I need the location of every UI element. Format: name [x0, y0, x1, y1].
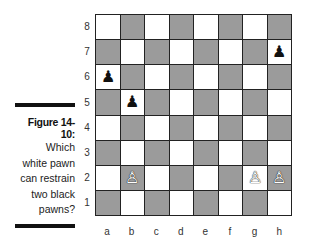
- square-b2: ♙: [121, 166, 145, 190]
- square-h4: [268, 116, 292, 140]
- square-b3: [121, 141, 145, 165]
- square-d8: [170, 15, 194, 39]
- square-a4: [96, 116, 120, 140]
- caption-line: Which: [15, 140, 75, 156]
- square-f8: [219, 15, 243, 39]
- square-d2: [170, 166, 194, 190]
- square-d7: [170, 40, 194, 64]
- white-pawn-icon: ♙: [248, 170, 262, 186]
- square-b6: [121, 65, 145, 89]
- square-c8: [145, 15, 169, 39]
- file-label-d: d: [169, 226, 193, 237]
- square-h2: ♙: [268, 166, 292, 190]
- square-c7: [145, 40, 169, 64]
- rank-label-3: 3: [82, 147, 92, 158]
- caption-line: two black: [15, 187, 75, 203]
- square-g1: [243, 191, 267, 215]
- square-b1: [121, 191, 145, 215]
- square-d4: [170, 116, 194, 140]
- square-h7: ♟: [268, 40, 292, 64]
- rank-label-2: 2: [82, 172, 92, 183]
- square-g7: [243, 40, 267, 64]
- figure-caption: Figure 14-10: Which white pawn can restr…: [15, 103, 75, 228]
- square-d3: [170, 141, 194, 165]
- caption-body: Which white pawn can restrain two black …: [15, 140, 75, 218]
- square-b5: ♟: [121, 90, 145, 114]
- file-label-c: c: [144, 226, 168, 237]
- square-c2: [145, 166, 169, 190]
- file-label-e: e: [193, 226, 217, 237]
- square-f7: [219, 40, 243, 64]
- square-a5: [96, 90, 120, 114]
- square-f5: [219, 90, 243, 114]
- square-b4: [121, 116, 145, 140]
- file-label-b: b: [120, 226, 144, 237]
- square-f1: [219, 191, 243, 215]
- square-g5: [243, 90, 267, 114]
- square-a6: ♟: [96, 65, 120, 89]
- chess-board: ♟♟♟♙♙♙: [95, 14, 292, 216]
- file-label-a: a: [95, 226, 119, 237]
- square-g8: [243, 15, 267, 39]
- square-g6: [243, 65, 267, 89]
- square-a3: [96, 141, 120, 165]
- square-h1: [268, 191, 292, 215]
- square-h6: [268, 65, 292, 89]
- square-a1: [96, 191, 120, 215]
- white-pawn-icon: ♙: [272, 170, 286, 186]
- file-label-h: h: [267, 226, 291, 237]
- square-g4: [243, 116, 267, 140]
- white-pawn-icon: ♙: [125, 170, 139, 186]
- black-pawn-icon: ♟: [101, 69, 115, 85]
- caption-top-rule: [15, 103, 75, 107]
- square-f4: [219, 116, 243, 140]
- file-label-g: g: [243, 226, 267, 237]
- square-h5: [268, 90, 292, 114]
- caption-title: Figure 14-10:: [15, 116, 75, 140]
- square-g3: [243, 141, 267, 165]
- square-c6: [145, 65, 169, 89]
- square-e5: [194, 90, 218, 114]
- rank-label-6: 6: [82, 71, 92, 82]
- square-h8: [268, 15, 292, 39]
- rank-label-1: 1: [82, 197, 92, 208]
- square-a2: [96, 166, 120, 190]
- square-e2: [194, 166, 218, 190]
- rank-label-5: 5: [82, 97, 92, 108]
- square-e7: [194, 40, 218, 64]
- square-d5: [170, 90, 194, 114]
- square-f6: [219, 65, 243, 89]
- caption-line: white pawn: [15, 156, 75, 172]
- square-e6: [194, 65, 218, 89]
- square-c1: [145, 191, 169, 215]
- square-a8: [96, 15, 120, 39]
- square-d6: [170, 65, 194, 89]
- square-f2: [219, 166, 243, 190]
- square-e8: [194, 15, 218, 39]
- black-pawn-icon: ♟: [125, 94, 139, 110]
- square-e3: [194, 141, 218, 165]
- square-c3: [145, 141, 169, 165]
- square-d1: [170, 191, 194, 215]
- caption-line: can restrain: [15, 171, 75, 187]
- rank-label-8: 8: [82, 21, 92, 32]
- square-h3: [268, 141, 292, 165]
- rank-label-7: 7: [82, 46, 92, 57]
- square-c4: [145, 116, 169, 140]
- file-label-f: f: [218, 226, 242, 237]
- square-g2: ♙: [243, 166, 267, 190]
- square-b7: [121, 40, 145, 64]
- caption-line: pawns?: [15, 202, 75, 218]
- square-a7: [96, 40, 120, 64]
- caption-bottom-rule: [15, 224, 75, 228]
- square-c5: [145, 90, 169, 114]
- square-f3: [219, 141, 243, 165]
- black-pawn-icon: ♟: [272, 44, 286, 60]
- rank-label-4: 4: [82, 122, 92, 133]
- square-e4: [194, 116, 218, 140]
- square-e1: [194, 191, 218, 215]
- square-b8: [121, 15, 145, 39]
